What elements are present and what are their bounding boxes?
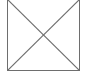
image-placeholder — [7, 0, 80, 71]
image-missing-x-icon — [8, 0, 79, 70]
